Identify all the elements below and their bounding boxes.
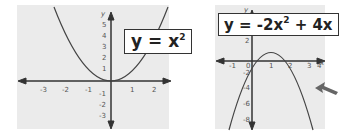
exponent: 2 [179, 32, 185, 42]
tick-label: 3 [102, 43, 106, 51]
tick-label: -8 [243, 116, 250, 124]
tick-label: -6 [243, 100, 251, 108]
equation-text: y = -2x [224, 16, 283, 34]
equation-text: y = x [131, 31, 179, 51]
left-ticks: -3 -2 -1 1 2 5 4 3 2 1 -1 -2 -3 y [40, 10, 156, 120]
tick-label: -1 [85, 86, 92, 94]
tick-label: -2 [99, 101, 106, 109]
tick-label: 1 [269, 62, 273, 70]
pointer-arrow-icon [315, 82, 338, 95]
tick-label: 4 [102, 32, 107, 40]
tick-label: 1 [102, 65, 106, 73]
tick-label: 2 [102, 54, 106, 62]
equation-label-parabola: y = x2 [124, 29, 192, 54]
tick-label: -1 [229, 62, 236, 70]
tick-label: -3 [99, 112, 106, 120]
x-axis-label: x [319, 59, 325, 67]
tick-label: -1 [99, 90, 106, 98]
tick-label: 3 [307, 62, 311, 70]
tick-label: -2 [62, 86, 69, 94]
tick-label: 1 [130, 86, 134, 94]
tick-label: 2 [245, 37, 249, 45]
tick-label: 5 [102, 21, 106, 29]
y-axis-label: y [100, 10, 106, 18]
tick-label: -3 [40, 86, 47, 94]
equation-text: + 4x [289, 16, 332, 34]
tick-label: 2 [152, 86, 156, 94]
equation-label-quadratic: y = -2x2 + 4x [218, 13, 339, 36]
